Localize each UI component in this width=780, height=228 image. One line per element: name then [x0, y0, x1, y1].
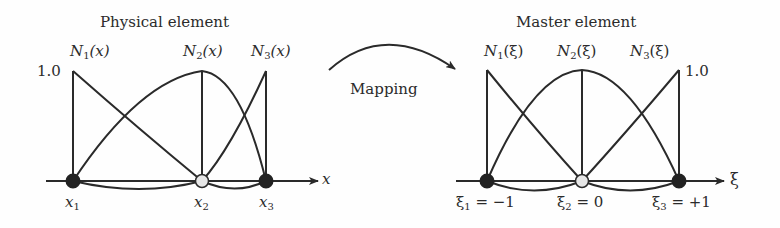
x-axis-label: x [322, 170, 330, 188]
mapping-label: Mapping [350, 80, 418, 98]
label-n2-x: N2(x) [183, 42, 223, 61]
label-n1-xi: N1(ξ) [484, 42, 523, 61]
label-n3-xi: N3(ξ) [630, 42, 669, 61]
node-x3 [260, 175, 273, 188]
node-xi2 [576, 175, 589, 188]
master-value-label: 1.0 [685, 62, 709, 80]
label-n2-xi: N2(ξ) [557, 42, 596, 61]
master-element-plot [456, 70, 724, 191]
node-label-xi3: ξ3 = +1 [652, 193, 711, 212]
node-xi3 [673, 175, 686, 188]
physical-element-plot [46, 71, 318, 189]
n2-curve [73, 71, 266, 181]
physical-value-label: 1.0 [37, 62, 61, 80]
node-xi1 [481, 175, 494, 188]
node-label-x1: x1 [65, 193, 80, 212]
node-label-xi1: ξ1 = −1 [456, 193, 515, 212]
master-element-title: Master element [516, 13, 636, 31]
node-x2 [196, 175, 209, 188]
label-n1-x: N1(x) [70, 42, 110, 61]
node-label-x3: x3 [259, 193, 274, 212]
node-label-x2: x2 [194, 193, 209, 212]
mapping-arrow [329, 45, 455, 70]
xi-axis-label: ξ [730, 170, 739, 189]
node-x1 [67, 175, 80, 188]
n3-curve [73, 71, 266, 189]
physical-element-title: Physical element [100, 13, 229, 31]
shape-function-mapping-diagram: Physical element 1.0 N1(x) N2(x) N3(x) x… [0, 0, 780, 228]
node-label-xi2: ξ2 = 0 [557, 193, 603, 212]
label-n3-x: N3(x) [251, 42, 291, 61]
